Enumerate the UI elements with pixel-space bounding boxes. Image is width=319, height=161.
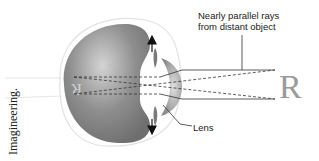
credit-text: Imagineering. — [6, 88, 21, 155]
iris-top — [154, 48, 158, 68]
iris-bottom — [154, 106, 158, 126]
distant-object: R — [279, 70, 302, 104]
rays-label: Nearly parallel rays from distant object — [198, 10, 279, 32]
rays-label-line1: Nearly parallel rays — [198, 10, 279, 21]
lens-label: Lens — [193, 122, 214, 133]
retina-image: R — [71, 81, 82, 98]
eye-focus-diagram: R R Nearly parallel rays from di — [0, 0, 319, 161]
rays-label-line2: from distant object — [198, 21, 279, 32]
